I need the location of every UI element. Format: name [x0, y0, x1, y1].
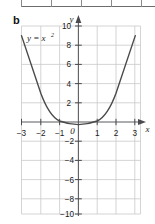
x-tick-labels: −3 −2 −1 2 3 1 — [17, 129, 138, 138]
y-tick-label: 4 — [66, 80, 71, 89]
x-tick-label: 1 — [95, 129, 100, 138]
y-tick-label: −10 — [60, 210, 74, 219]
y-tick-label: 6 — [66, 60, 71, 69]
y-tick-label: −8 — [65, 195, 75, 204]
grid-lines — [22, 26, 141, 214]
graph-figure: 10 8 6 4 2 −2 −4 −6 −8 −10 −3 −2 −1 2 3 … — [0, 0, 155, 224]
x-tick-label: 2 — [114, 129, 119, 138]
y-tick-label: −6 — [65, 176, 75, 185]
y-axis-arrow — [76, 15, 82, 23]
coordinate-plot: 10 8 6 4 2 −2 −4 −6 −8 −10 −3 −2 −1 2 3 … — [0, 0, 155, 224]
equation-base: y = x — [26, 33, 46, 43]
y-tick-label: 8 — [66, 41, 71, 50]
x-tick-label: 3 — [133, 129, 138, 138]
y-tick-label: −2 — [65, 137, 75, 146]
y-tick-label: 2 — [66, 99, 71, 108]
origin-label: 0 — [70, 126, 75, 136]
x-tick-label: −2 — [36, 129, 46, 138]
x-tick-label: −1 — [55, 129, 65, 138]
equation-exponent: 2 — [51, 32, 54, 38]
y-tick-label: −4 — [65, 156, 75, 165]
x-axis-label: x — [145, 124, 150, 134]
equation-annotation: y = x 2 — [26, 32, 54, 43]
x-tick-label: −3 — [17, 129, 27, 138]
y-tick-labels: 10 8 6 4 2 −2 −4 −6 −8 −10 — [60, 22, 74, 219]
y-axis-label: y — [69, 14, 74, 24]
axes — [22, 20, 141, 216]
